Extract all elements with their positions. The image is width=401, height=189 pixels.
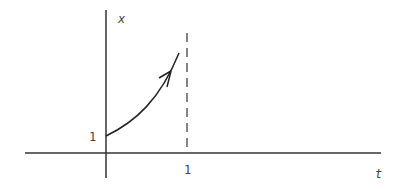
- y-tick-label-1: 1: [89, 130, 96, 144]
- t-axis-label: t: [375, 167, 382, 181]
- diagram-canvas: x t 1 1: [0, 0, 401, 189]
- t-tick-label-1: 1: [184, 163, 191, 177]
- solution-curve: [106, 53, 179, 136]
- x-axis-label: x: [117, 12, 126, 26]
- diagram-svg: x t 1 1: [0, 0, 401, 189]
